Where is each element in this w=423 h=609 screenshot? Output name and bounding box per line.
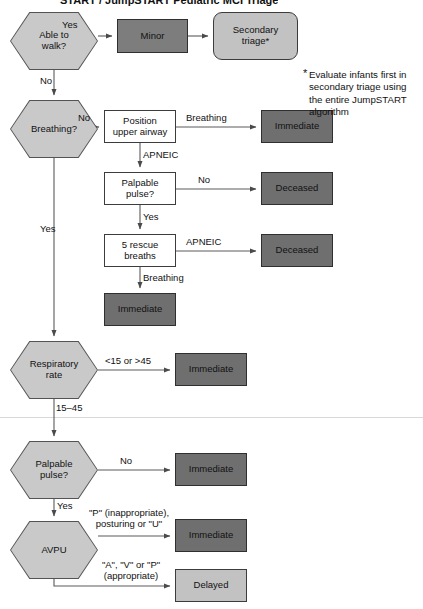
edge-label-avpu-immediate: "P" (inappropriate), posturing or "U" [86, 508, 172, 530]
edge-label-no-walk: No [40, 76, 52, 87]
edge-label-apneic-1: APNEIC [143, 150, 178, 161]
process-secondary-triage[interactable]: Secondary triage* [213, 12, 298, 60]
decision-breathing[interactable]: Breathing? [10, 100, 98, 158]
edge-label-no-breathing: No [78, 113, 90, 124]
node-label: Deceased [276, 183, 319, 194]
decision-respiratory-rate[interactable]: Respiratory rate [10, 341, 98, 399]
edge-label-yes-pulse-1: Yes [143, 212, 159, 223]
edge-label-avpu-delayed: "A", "V" or "P" (appropriate) [88, 560, 174, 582]
edge-label-no-pulse-1: No [198, 175, 210, 186]
node-label: Palpable pulse? [122, 178, 159, 199]
outcome-deceased-1[interactable]: Deceased [261, 172, 333, 205]
process-palpable-pulse-1[interactable]: Palpable pulse? [104, 172, 176, 205]
node-label: Breathing? [31, 124, 77, 135]
edge-label-breathing-1: Breathing [186, 113, 227, 124]
node-label: Immediate [275, 121, 319, 132]
outcome-immediate-4[interactable]: Immediate [175, 453, 247, 486]
flowchart-canvas: START / JumpSTART Pediatric MCI Triage [0, 0, 423, 609]
edge-label-rr-abnormal: <15 or >45 [105, 356, 151, 367]
edge-label-yes-pulse-2: Yes [57, 501, 73, 512]
node-label: Palpable pulse? [36, 459, 73, 480]
node-label: Secondary triage* [233, 25, 278, 46]
outcome-immediate-5[interactable]: Immediate [175, 519, 247, 552]
edge-label-breathing-2: Breathing [143, 273, 184, 284]
node-label: Delayed [194, 580, 229, 591]
edge-label-no-pulse-2: No [120, 456, 132, 467]
outcome-delayed[interactable]: Delayed [175, 569, 247, 602]
edge-label-yes-breathing: Yes [40, 224, 56, 235]
node-label: 5 rescue breaths [122, 240, 158, 261]
decision-able-to-walk[interactable]: Able to walk? [10, 12, 98, 70]
outcome-immediate-3[interactable]: Immediate [175, 353, 247, 386]
outcome-immediate-2[interactable]: Immediate [104, 293, 176, 326]
node-label: Able to walk? [39, 30, 69, 51]
node-label: Immediate [189, 464, 233, 475]
node-label: Deceased [276, 245, 319, 256]
process-five-rescue-breaths[interactable]: 5 rescue breaths [104, 234, 176, 267]
section-divider [0, 417, 423, 418]
process-position-upper-airway[interactable]: Position upper airway [104, 110, 176, 143]
node-label: Immediate [189, 530, 233, 541]
decision-avpu[interactable]: AVPU [10, 521, 98, 579]
footnote-marker: * [303, 66, 307, 80]
footnote-text: Evaluate infants first in secondary tria… [309, 69, 421, 119]
node-label: AVPU [41, 545, 66, 556]
edge-label-yes-walk: Yes [62, 20, 78, 31]
node-label: Respiratory rate [30, 359, 79, 380]
node-label: Immediate [118, 304, 162, 315]
page-title: START / JumpSTART Pediatric MCI Triage [60, 0, 278, 6]
node-label: Position upper airway [113, 116, 167, 137]
edge-label-rr-normal: 15–45 [56, 403, 82, 414]
outcome-minor[interactable]: Minor [117, 19, 188, 53]
edge-label-apneic-2: APNEIC [186, 237, 221, 248]
node-label: Minor [141, 31, 165, 42]
decision-palpable-pulse-2[interactable]: Palpable pulse? [10, 441, 98, 499]
outcome-deceased-2[interactable]: Deceased [261, 234, 333, 267]
node-label: Immediate [189, 364, 233, 375]
